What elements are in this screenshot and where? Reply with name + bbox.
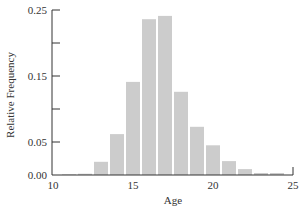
x-tick-label: 15	[128, 179, 140, 191]
bar-age-18	[174, 92, 188, 175]
y-ticks-group: 0.000.050.150.25	[28, 4, 60, 181]
bar-age-16	[142, 19, 156, 175]
y-axis-label: Relative Frequency	[4, 52, 16, 138]
axes-group	[52, 10, 293, 175]
bar-age-13	[94, 162, 108, 175]
x-ticks-group: 10152025	[48, 179, 300, 191]
y-tick-label: 0.15	[28, 70, 48, 82]
bars-group	[62, 16, 284, 175]
bar-age-20	[206, 145, 220, 175]
bar-age-21	[222, 161, 236, 175]
x-axis-label: Age	[164, 194, 182, 206]
y-tick-label: 0.00	[28, 169, 48, 181]
y-tick-label: 0.05	[28, 136, 48, 148]
bar-age-17	[158, 16, 172, 175]
bar-age-19	[190, 127, 204, 175]
x-tick-label: 10	[48, 179, 60, 191]
y-tick-label: 0.25	[28, 4, 48, 16]
x-tick-label: 25	[288, 179, 300, 191]
bar-age-22	[238, 169, 252, 175]
bar-age-15	[126, 82, 140, 175]
histogram-chart: 0.000.050.150.25 10152025 Age Relative F…	[0, 0, 304, 210]
bar-age-14	[110, 134, 124, 175]
x-tick-label: 20	[208, 179, 220, 191]
